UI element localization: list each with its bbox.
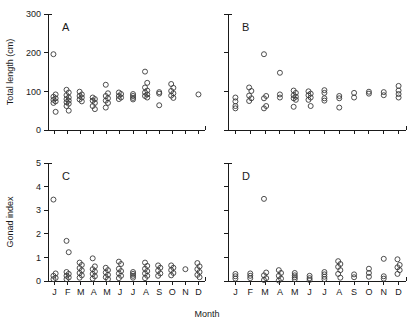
month-label-d-8: S	[351, 287, 357, 297]
data-point	[277, 70, 282, 75]
month-label-d-1: F	[248, 287, 254, 297]
month-label-d-3: A	[277, 287, 283, 297]
panel-letter-c: C	[62, 170, 70, 182]
data-point	[308, 104, 313, 109]
scatter-figure: 0100200300AB012345JFMAMJJASONDCJFMAMJJAS…	[0, 0, 414, 327]
panel-a: 0100200300A	[26, 9, 205, 135]
month-label-d-10: N	[381, 287, 388, 297]
month-label-c-7: A	[143, 287, 149, 297]
data-point	[157, 103, 162, 108]
y-axis-title-bottom: Gonad index	[5, 196, 15, 248]
month-label-c-8: S	[156, 287, 162, 297]
panel-letter-a: A	[62, 21, 70, 33]
panel-b: B	[224, 14, 406, 134]
month-label-c-6: J	[131, 287, 136, 297]
data-point	[291, 104, 296, 109]
ytick-label-5: 5	[36, 158, 41, 168]
month-label-d-4: M	[291, 287, 299, 297]
ytick-label-1: 1	[36, 253, 41, 263]
data-point	[66, 108, 71, 113]
figure-container: 0100200300AB012345JFMAMJJASONDCJFMAMJJAS…	[0, 0, 414, 327]
axis-spine-a	[48, 14, 205, 130]
data-point	[261, 196, 266, 201]
data-point	[395, 257, 400, 262]
month-label-c-9: O	[169, 287, 176, 297]
panel-c: 012345JFMAMJJASONDC	[36, 158, 205, 297]
month-label-c-2: M	[77, 287, 85, 297]
data-point	[396, 95, 401, 100]
data-point	[53, 109, 58, 114]
data-point	[66, 250, 71, 255]
month-label-c-11: D	[195, 287, 202, 297]
data-point	[381, 93, 386, 98]
panel-letter-d: D	[242, 170, 250, 182]
month-label-d-7: A	[336, 287, 342, 297]
ytick-label-300: 300	[26, 9, 41, 19]
month-label-c-5: J	[118, 287, 123, 297]
data-point	[103, 82, 108, 87]
data-point	[196, 92, 201, 97]
axis-spine-c	[48, 163, 205, 281]
ytick-label-0: 0	[36, 276, 41, 286]
month-label-d-5: J	[307, 287, 312, 297]
data-point	[366, 274, 371, 279]
ytick-label-0: 0	[36, 125, 41, 135]
ytick-label-3: 3	[36, 205, 41, 215]
month-label-d-11: D	[395, 287, 402, 297]
ytick-label-2: 2	[36, 229, 41, 239]
month-label-d-2: M	[261, 287, 269, 297]
panel-letter-b: B	[242, 21, 249, 33]
panel-d: JFMAMJJASONDD	[224, 163, 406, 297]
month-label-d-0: J	[233, 287, 238, 297]
data-point	[64, 238, 69, 243]
month-label-c-0: J	[52, 287, 57, 297]
ytick-label-4: 4	[36, 182, 41, 192]
data-point	[261, 52, 266, 57]
y-axis-title-top: Total length (cm)	[5, 39, 15, 106]
ytick-label-100: 100	[26, 87, 41, 97]
data-point	[381, 256, 386, 261]
data-point	[395, 271, 400, 276]
month-label-c-3: A	[91, 287, 97, 297]
axis-spine-b	[228, 14, 406, 130]
data-point	[143, 69, 148, 74]
data-point	[51, 197, 56, 202]
data-point	[183, 267, 188, 272]
month-label-c-4: M	[103, 287, 111, 297]
ytick-label-200: 200	[26, 48, 41, 58]
x-axis-title: Month	[194, 309, 219, 319]
data-point	[103, 105, 108, 110]
axis-spine-d	[228, 163, 406, 281]
month-label-d-6: J	[322, 287, 327, 297]
data-point	[51, 52, 56, 57]
month-label-c-1: F	[65, 287, 71, 297]
data-point	[338, 275, 343, 280]
data-point	[90, 256, 95, 261]
month-label-c-10: N	[182, 287, 189, 297]
data-point	[337, 105, 342, 110]
month-label-d-9: O	[365, 287, 372, 297]
data-point	[277, 95, 282, 100]
